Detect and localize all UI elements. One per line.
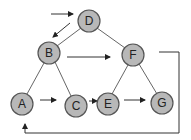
- node-f: F: [122, 44, 144, 66]
- node-a: A: [11, 93, 33, 115]
- node-c: C: [65, 95, 87, 117]
- node-label-f: F: [129, 48, 136, 62]
- edge-d-f: [97, 28, 125, 48]
- node-e: E: [97, 93, 119, 115]
- tree-diagram: D B F A C E G: [0, 0, 191, 140]
- edge-f-g: [139, 64, 157, 94]
- edge-f-e: [112, 65, 128, 94]
- node-label-d: D: [85, 14, 94, 28]
- node-label-e: E: [104, 97, 112, 111]
- node-label-c: C: [72, 99, 81, 113]
- arrow-d-b: [53, 23, 70, 37]
- edge-b-c: [55, 62, 71, 96]
- node-b: B: [38, 42, 60, 64]
- node-label-a: A: [18, 97, 26, 111]
- node-label-b: B: [45, 46, 53, 60]
- edge-b-a: [27, 63, 44, 94]
- node-d: D: [78, 10, 100, 32]
- node-g: G: [151, 92, 173, 114]
- node-label-g: G: [157, 96, 166, 110]
